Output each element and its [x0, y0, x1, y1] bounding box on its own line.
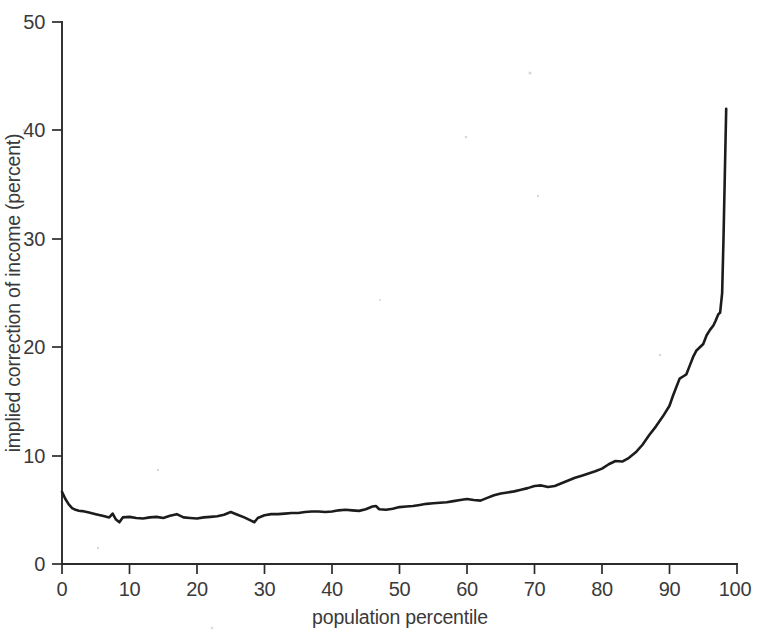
- x-tick-label: 40: [321, 578, 343, 600]
- x-tick-label: 100: [719, 578, 752, 600]
- y-tick-label: 0: [34, 553, 45, 575]
- x-tick-label: 0: [57, 578, 68, 600]
- y-tick-label: 50: [23, 11, 45, 33]
- data-series-line: [62, 109, 726, 523]
- x-tick-label: 90: [659, 578, 681, 600]
- x-axis-tick-labels: 0 10 20 30 40 50 60 70 80 90 100: [57, 578, 752, 600]
- x-axis-ticks: [62, 564, 737, 574]
- x-tick-label: 50: [389, 578, 411, 600]
- x-tick-label: 80: [591, 578, 613, 600]
- y-tick-label: 10: [23, 445, 45, 467]
- y-tick-label: 30: [23, 228, 45, 250]
- y-axis-ticks: [52, 22, 62, 564]
- x-tick-label: 20: [186, 578, 208, 600]
- chart-svg: 0 10 20 30 40 50 0 10 20 30 40: [0, 0, 758, 637]
- y-tick-label: 40: [23, 119, 45, 141]
- x-tick-label: 60: [456, 578, 478, 600]
- x-tick-label: 30: [254, 578, 276, 600]
- x-axis-title: population percentile: [312, 606, 488, 628]
- y-axis-tick-labels: 0 10 20 30 40 50: [23, 11, 45, 575]
- chart-figure: 0 10 20 30 40 50 0 10 20 30 40: [0, 0, 758, 637]
- x-tick-label: 10: [119, 578, 141, 600]
- y-tick-label: 20: [23, 336, 45, 358]
- scan-speckles: [23, 71, 662, 629]
- x-tick-label: 70: [524, 578, 546, 600]
- y-axis-title: implied correction of income (percent): [2, 134, 24, 453]
